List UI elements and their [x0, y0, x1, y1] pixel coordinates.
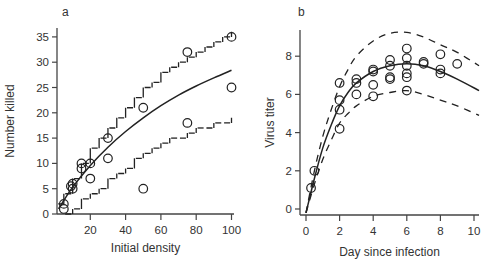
bound-step — [206, 123, 213, 128]
data-point — [403, 44, 412, 53]
panel-b-chart: b024680246810Day since infectionVirus ti… — [263, 5, 480, 259]
x-tick-label: 6 — [404, 225, 410, 237]
data-point — [386, 73, 395, 82]
x-axis-label: Day since infection — [339, 245, 440, 259]
bound-step — [65, 209, 72, 214]
bound-step — [109, 118, 116, 128]
data-point — [139, 184, 148, 193]
data-point — [386, 75, 395, 84]
y-tick-label: 0 — [286, 203, 292, 215]
bound-step — [180, 133, 187, 138]
panel-a-chart: a0510152025303520406080100Initial densit… — [3, 5, 241, 255]
data-point — [183, 119, 192, 128]
bound-step — [153, 72, 160, 82]
bound-step — [215, 37, 222, 42]
y-tick-label: 20 — [36, 107, 49, 119]
bound-step — [189, 128, 196, 133]
x-tick-label: 60 — [155, 224, 168, 236]
bound-step — [92, 189, 99, 194]
bound-step — [153, 143, 160, 148]
x-tick-label: 40 — [119, 224, 132, 236]
data-point — [352, 90, 361, 99]
x-tick-label: 100 — [222, 224, 241, 236]
bound-step — [189, 52, 196, 57]
bound-step — [118, 168, 125, 173]
y-tick-label: 35 — [36, 31, 49, 43]
panel-label: b — [298, 5, 305, 19]
bound-step — [83, 194, 90, 199]
bound-step — [180, 57, 187, 62]
panel-label: a — [62, 5, 69, 19]
y-axis-label: Number killed — [3, 84, 17, 157]
bound-step — [58, 194, 64, 204]
x-axis-label: Initial density — [111, 241, 180, 255]
bound-step — [162, 67, 169, 72]
data-point — [335, 124, 344, 133]
data-point — [183, 48, 192, 57]
bound-step — [118, 108, 125, 118]
data-point — [86, 174, 95, 183]
y-tick-label: 8 — [286, 50, 292, 62]
data-point — [369, 81, 378, 90]
bound-step — [127, 158, 134, 168]
y-tick-label: 0 — [43, 208, 49, 220]
y-tick-label: 2 — [286, 165, 292, 177]
bound-step — [109, 174, 116, 179]
bound-step — [162, 138, 169, 143]
x-tick-label: 4 — [370, 225, 377, 237]
fitted-curve — [59, 70, 232, 209]
bound-step — [224, 118, 231, 123]
x-tick-label: 8 — [437, 225, 443, 237]
figure: a0510152025303520406080100Initial densit… — [0, 0, 492, 272]
bound-step — [206, 42, 213, 47]
bound-step — [171, 62, 178, 67]
y-axis-label: Virus titer — [263, 97, 277, 147]
y-tick-label: 4 — [286, 127, 293, 139]
bound-step — [127, 98, 134, 108]
x-tick-label: 2 — [336, 225, 342, 237]
x-tick-label: 80 — [190, 224, 203, 236]
x-tick-label: 20 — [84, 224, 97, 236]
data-point — [104, 154, 113, 163]
bound-step — [101, 179, 108, 189]
y-tick-label: 5 — [43, 183, 49, 195]
bound-step — [145, 148, 152, 153]
y-tick-label: 6 — [286, 88, 292, 100]
figure-canvas: a0510152025303520406080100Initial densit… — [0, 0, 492, 272]
y-tick-label: 25 — [36, 82, 49, 94]
bound-step — [198, 47, 205, 52]
data-point — [139, 103, 148, 112]
bound-step — [92, 138, 99, 148]
data-point — [369, 92, 378, 101]
y-tick-label: 10 — [36, 157, 49, 169]
bound-step — [136, 153, 143, 158]
y-tick-label: 15 — [36, 132, 49, 144]
bound-step — [145, 82, 152, 87]
x-tick-label: 0 — [303, 225, 309, 237]
bound-step — [136, 88, 143, 98]
bound-step — [74, 199, 81, 209]
data-point — [436, 50, 445, 59]
y-tick-label: 30 — [36, 56, 49, 68]
data-point — [453, 60, 462, 69]
x-tick-label: 10 — [468, 225, 481, 237]
data-point — [227, 83, 236, 92]
